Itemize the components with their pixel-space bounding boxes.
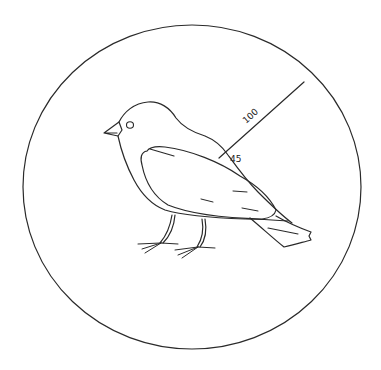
bird-foot-back <box>175 247 215 258</box>
bird-chest-outline <box>118 136 288 221</box>
angle-label: 45 <box>230 154 241 164</box>
bird-drawing <box>104 102 311 258</box>
bird-foot-front <box>138 243 178 253</box>
radius-line <box>219 82 304 158</box>
bird-beak <box>104 122 122 136</box>
bird-leg-front <box>160 215 175 243</box>
boundary-circle <box>23 25 361 349</box>
diagram-canvas: 100 45 <box>0 0 381 370</box>
bird-head-back-outline <box>119 102 292 223</box>
bird-eye <box>127 122 134 128</box>
radius-label: 100 <box>241 106 261 125</box>
bird-leg-back <box>197 219 206 247</box>
bird-wing-feather-lines <box>201 191 258 211</box>
